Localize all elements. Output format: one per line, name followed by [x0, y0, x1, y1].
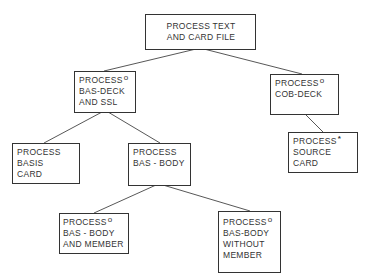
- node-line: BAS-BODY: [223, 228, 277, 239]
- edge-basdeck-basiscard: [44, 112, 102, 143]
- node-process-cob-deck: PROCESSo COB-DECK: [270, 74, 339, 115]
- node-process-source-card: PROCESS* SOURCE CARD: [288, 132, 358, 173]
- node-line: PROCESS: [63, 217, 107, 227]
- node-line: MEMBER: [223, 250, 277, 261]
- node-process-bas-deck-and-ssl: PROCESSo BAS-DECK AND SSL: [74, 71, 136, 113]
- marker-circle-icon: o: [320, 76, 325, 85]
- node-line: BASIS: [17, 158, 76, 169]
- marker-asterisk-icon: *: [338, 134, 341, 143]
- node-line: PROCESS: [133, 147, 187, 158]
- edge-basbody-andmember: [94, 185, 156, 213]
- node-line: PROCESS TEXT: [150, 21, 252, 32]
- edge-basbody-withoutmember: [163, 185, 250, 211]
- edge-root-basdeck: [104, 49, 196, 71]
- edge-root-cobdeck: [204, 49, 302, 74]
- node-line: PROCESS: [293, 136, 337, 146]
- node-line: PROCESS: [79, 75, 123, 85]
- node-line: AND CARD FILE: [150, 32, 252, 43]
- node-line: PROCESS: [17, 147, 76, 158]
- edge-basdeck-basbody: [108, 112, 160, 143]
- node-process-bas-body-without-member: PROCESSo BAS-BODY WITHOUT MEMBER: [218, 211, 281, 273]
- marker-circle-icon: o: [124, 73, 129, 82]
- node-process-text-and-card-file: PROCESS TEXT AND CARD FILE: [145, 14, 256, 50]
- node-line: PROCESS: [223, 217, 267, 227]
- node-line: AND MEMBER: [63, 239, 125, 250]
- node-line: BAS - BODY: [133, 158, 187, 169]
- marker-circle-icon: o: [268, 215, 273, 224]
- node-line: BAS - BODY: [63, 228, 125, 239]
- node-line: CARD: [17, 169, 76, 180]
- node-process-bas-body: PROCESS BAS - BODY: [128, 143, 191, 186]
- node-line: WITHOUT: [223, 239, 277, 250]
- node-line: CARD: [293, 158, 354, 169]
- marker-circle-icon: o: [108, 215, 113, 224]
- node-process-bas-body-and-member: PROCESSo BAS - BODY AND MEMBER: [59, 213, 129, 254]
- node-line: BAS-DECK: [79, 86, 132, 97]
- node-process-basis-card: PROCESS BASIS CARD: [12, 143, 80, 184]
- edge-cobdeck-sourcecard: [305, 114, 323, 132]
- node-line: COB-DECK: [275, 89, 335, 100]
- node-line: SOURCE: [293, 147, 354, 158]
- node-line: PROCESS: [275, 78, 319, 88]
- structure-diagram: PROCESS TEXT AND CARD FILE PROCESSo BAS-…: [0, 0, 369, 280]
- node-line: AND SSL: [79, 97, 132, 108]
